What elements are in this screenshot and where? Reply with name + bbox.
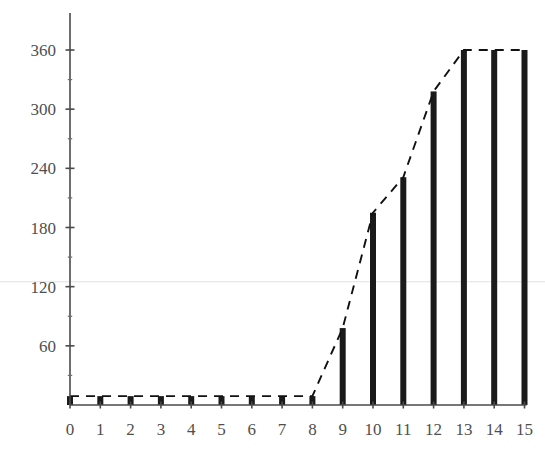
x-tick-label-6: 6 (248, 420, 257, 439)
x-tick-label-11: 11 (395, 420, 411, 439)
trend-line (70, 50, 525, 396)
y-tick-label-360: 360 (31, 41, 57, 60)
x-tick-label-4: 4 (187, 420, 196, 439)
bar-14 (491, 50, 497, 405)
x-tick-label-15: 15 (516, 420, 533, 439)
x-tick-label-5: 5 (217, 420, 226, 439)
bar-10 (370, 213, 376, 405)
y-tick-label-180: 180 (31, 219, 57, 238)
x-tick-label-8: 8 (308, 420, 317, 439)
bar-15 (522, 50, 528, 405)
trend-line-group (70, 50, 525, 396)
x-tick-label-7: 7 (278, 420, 287, 439)
chart-figure: 60120180240300360 0123456789101112131415 (0, 0, 545, 468)
y-tick-label-240: 240 (31, 159, 57, 178)
x-axis-tick-labels: 0123456789101112131415 (66, 420, 533, 439)
x-tick-label-14: 14 (486, 420, 504, 439)
y-axis-tick-labels: 60120180240300360 (31, 41, 57, 356)
x-tick-label-10: 10 (365, 420, 382, 439)
x-tick-label-0: 0 (66, 420, 75, 439)
x-tick-label-2: 2 (126, 420, 135, 439)
x-tick-label-12: 12 (425, 420, 442, 439)
y-tick-label-300: 300 (31, 100, 57, 119)
bars-group (67, 50, 528, 405)
x-tick-label-9: 9 (338, 420, 347, 439)
x-tick-label-13: 13 (455, 420, 472, 439)
x-tick-label-1: 1 (96, 420, 105, 439)
x-tick-label-3: 3 (157, 420, 166, 439)
y-tick-label-120: 120 (31, 278, 57, 297)
bar-9 (340, 328, 346, 405)
bar-11 (400, 177, 406, 405)
bar-13 (461, 50, 467, 405)
axes-group (70, 13, 527, 405)
y-tick-label-60: 60 (39, 337, 56, 356)
bar-12 (431, 91, 437, 405)
chart-plot-area: 60120180240300360 0123456789101112131415 (0, 0, 545, 468)
